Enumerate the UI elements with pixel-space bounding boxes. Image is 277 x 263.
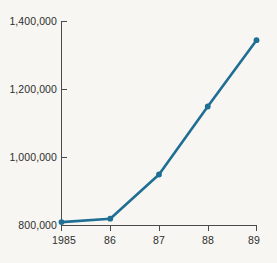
x-tick-label-88: 88: [202, 234, 214, 246]
data-point-89: [254, 37, 260, 43]
x-tick-label-87: 87: [153, 234, 165, 246]
data-point-87: [156, 172, 162, 178]
y-tick-label-800000: 800,000: [18, 219, 57, 231]
x-tick-label-89: 89: [248, 234, 260, 246]
x-tick-label-1985: 1985: [52, 234, 76, 246]
y-tick-label-1400000: 1,400,000: [9, 15, 57, 27]
line-chart: 1,400,000 1,200,000 1,000,000 800,000 19…: [0, 0, 277, 263]
y-tick-label-1000000: 1,000,000: [9, 151, 57, 163]
data-point-1985: [59, 219, 65, 225]
x-tick-label-86: 86: [104, 234, 116, 246]
data-point-86: [107, 216, 113, 222]
data-point-88: [205, 104, 211, 110]
y-tick-label-1200000: 1,200,000: [9, 83, 57, 95]
chart-figure: 1,400,000 1,200,000 1,000,000 800,000 19…: [0, 0, 277, 263]
